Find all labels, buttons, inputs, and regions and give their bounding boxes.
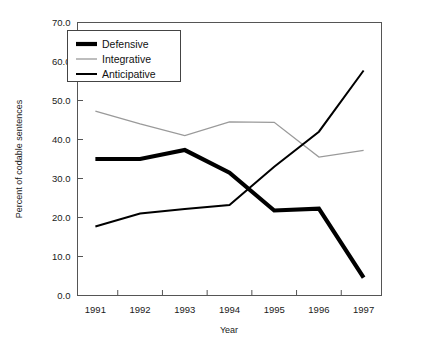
y-tick-label: 20.0 — [52, 212, 71, 223]
y-tick-label: 40.0 — [52, 134, 71, 145]
x-tick-label: 1992 — [130, 304, 151, 315]
legend-label-integrative: Integrative — [102, 53, 151, 65]
chart-legend: DefensiveIntegrativeAnticipative — [68, 31, 181, 82]
x-axis-title: Year — [220, 325, 238, 335]
x-tick-label: 1996 — [308, 304, 329, 315]
x-tick-label: 1991 — [85, 304, 106, 315]
x-tick-label: 1993 — [174, 304, 195, 315]
y-tick-label: 10.0 — [52, 251, 71, 262]
legend-label-defensive: Defensive — [102, 38, 149, 50]
legend-label-anticipative: Anticipative — [102, 68, 156, 80]
y-tick-label: 30.0 — [52, 173, 71, 184]
x-tick-label: 1995 — [264, 304, 285, 315]
y-tick-label: 70.0 — [52, 17, 71, 28]
x-tick-label: 1997 — [353, 304, 374, 315]
chart-figure: 0.010.020.030.040.050.060.070.0 19911992… — [0, 0, 438, 344]
x-tick-label: 1994 — [219, 304, 240, 315]
line-chart: 0.010.020.030.040.050.060.070.0 19911992… — [0, 0, 438, 344]
y-tick-label: 0.0 — [57, 290, 70, 301]
y-axis-title: Percent of codable sentences — [14, 99, 24, 218]
y-tick-label: 50.0 — [52, 95, 71, 106]
